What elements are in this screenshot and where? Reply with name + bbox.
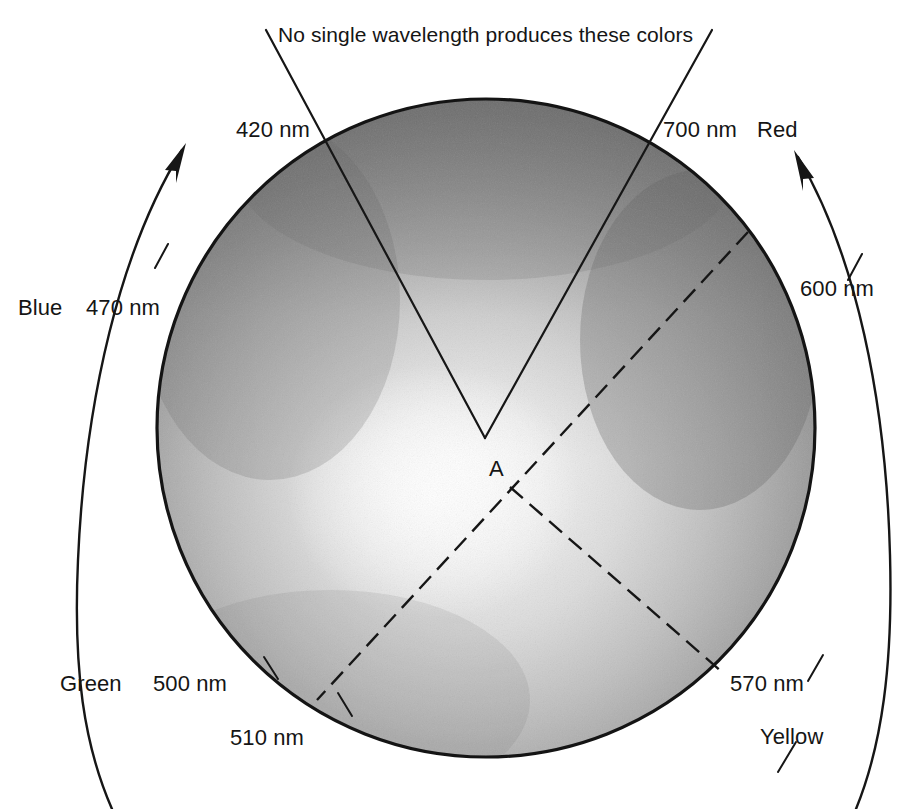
white-point-label-a: A — [489, 458, 504, 480]
left-arrowhead — [165, 143, 186, 183]
wavelength-label-500nm: 500 nm — [153, 673, 227, 695]
wavelength-label-700nm: 700 nm — [663, 119, 737, 141]
hue-label-red: Red — [757, 119, 798, 141]
wavelength-label-600nm: 600 nm — [800, 278, 874, 300]
hue-label-green: Green — [60, 673, 122, 695]
chromaticity-diagram-figure: No single wavelength produces these colo… — [0, 0, 913, 809]
wavelength-label-470nm: 470 nm — [86, 297, 160, 319]
leader-570nm-out — [808, 655, 823, 681]
leader-470nm — [155, 244, 168, 268]
right-arrowhead — [794, 150, 814, 191]
wavelength-label-420nm: 420 nm — [236, 119, 310, 141]
wavelength-label-510nm: 510 nm — [230, 727, 304, 749]
top-caption: No single wavelength produces these colo… — [278, 24, 693, 45]
wavelength-label-570nm: 570 nm — [730, 673, 804, 695]
chromaticity-disc — [130, 60, 820, 809]
hue-label-yellow: Yellow — [760, 726, 823, 748]
hue-label-blue: Blue — [18, 297, 62, 319]
